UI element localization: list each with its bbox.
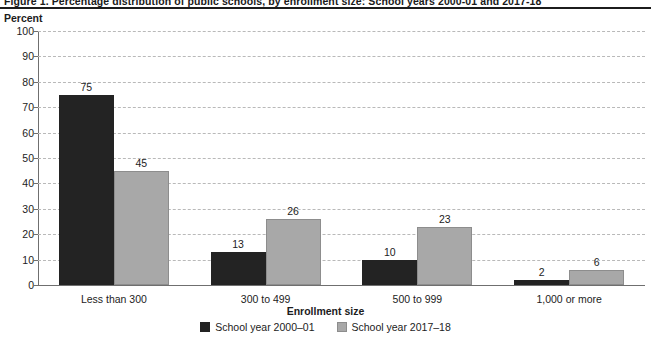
legend-item-series-1[interactable]: School year 2017–18	[337, 322, 451, 333]
bar-value-label: 10	[362, 247, 417, 258]
bar-series0-cat2	[362, 260, 417, 285]
bar-series0-cat3	[514, 280, 569, 285]
y-axis-tick	[33, 82, 38, 83]
legend-swatch-icon-series-0	[200, 322, 210, 332]
y-axis-tick-label: 100	[6, 26, 34, 37]
figure-title: Figure 1. Percentage distribution of pub…	[4, 0, 541, 7]
y-axis-tick-label: 70	[6, 102, 34, 113]
y-axis-tick-label: 80	[6, 77, 34, 88]
bar-series1-cat2	[417, 227, 472, 285]
bar-value-label: 45	[114, 158, 169, 169]
y-axis-tick	[33, 209, 38, 210]
y-axis-tick	[33, 133, 38, 134]
chart-legend: School year 2000–01 School year 2017–18	[0, 322, 651, 333]
y-axis-tick	[33, 234, 38, 235]
legend-label-series-0: School year 2000–01	[215, 322, 314, 333]
y-axis-unit-label: Percent	[4, 12, 43, 24]
x-axis-category-label: Less than 300	[38, 294, 190, 305]
y-axis-tick-label: 40	[6, 178, 34, 189]
bar-series1-cat1	[266, 219, 321, 285]
legend-swatch-icon-series-1	[337, 322, 347, 332]
gridline	[38, 107, 645, 108]
bar-series1-cat3	[569, 270, 624, 285]
y-axis-tick-label: 60	[6, 128, 34, 139]
y-axis-tick-label: 20	[6, 229, 34, 240]
bar-series1-cat0	[114, 171, 169, 285]
x-axis-category-label: 300 to 499	[190, 294, 342, 305]
y-axis-tick-label: 30	[6, 204, 34, 215]
bar-value-label: 75	[59, 82, 114, 93]
y-axis-tick	[33, 31, 38, 32]
y-axis-tick	[33, 285, 38, 286]
bar-value-label: 23	[417, 214, 472, 225]
gridline	[38, 133, 645, 134]
legend-label-series-1: School year 2017–18	[352, 322, 451, 333]
header-rule	[0, 7, 651, 9]
x-axis-line	[38, 285, 645, 286]
x-axis-category-label: 500 to 999	[342, 294, 494, 305]
y-axis-tick-label: 50	[6, 153, 34, 164]
legend-item-series-0[interactable]: School year 2000–01	[200, 322, 314, 333]
y-axis-tick	[33, 107, 38, 108]
y-axis-tick	[33, 158, 38, 159]
y-axis-tick	[33, 56, 38, 57]
bar-series0-cat1	[211, 252, 266, 285]
gridline	[38, 31, 645, 32]
bar-value-label: 26	[266, 206, 321, 217]
y-axis-tick-label: 90	[6, 51, 34, 62]
x-axis-title: Enrollment size	[0, 305, 651, 317]
gridline	[38, 82, 645, 83]
y-axis-tick-label: 0	[6, 280, 34, 291]
bar-value-label: 2	[514, 267, 569, 278]
y-axis-tick	[33, 260, 38, 261]
y-axis-tick	[33, 183, 38, 184]
y-axis-tick-labels: 0102030405060708090100	[0, 31, 34, 285]
bar-value-label: 13	[211, 239, 266, 250]
bar-value-label: 6	[569, 257, 624, 268]
figure-container: Figure 1. Percentage distribution of pub…	[0, 0, 651, 343]
bar-series0-cat0	[59, 95, 114, 286]
gridline	[38, 56, 645, 57]
y-axis-tick-label: 10	[6, 255, 34, 266]
x-axis-category-label: 1,000 or more	[493, 294, 645, 305]
